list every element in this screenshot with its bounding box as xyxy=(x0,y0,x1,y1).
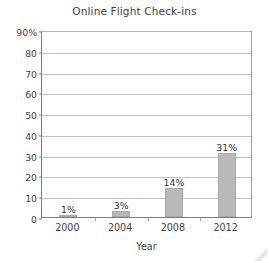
x-axis-tick-label: 2008 xyxy=(161,222,185,233)
y-axis-tick-mark xyxy=(39,32,43,33)
y-axis-tick-label: 90% xyxy=(16,27,37,38)
bar-value-label: 1% xyxy=(61,204,76,215)
x-axis-tick-mark xyxy=(95,217,96,221)
x-axis-tick-label: 2000 xyxy=(55,222,79,233)
bar xyxy=(59,215,77,217)
x-axis-tick-label: 2004 xyxy=(108,222,132,233)
bar-value-label: 14% xyxy=(163,177,184,188)
bar-value-label: 3% xyxy=(114,200,129,211)
y-axis-tick-mark xyxy=(39,177,43,178)
y-axis-tick-label: 10 xyxy=(25,193,37,204)
gridline xyxy=(42,115,251,116)
y-axis-tick-label: 60 xyxy=(25,89,37,100)
x-axis-tick-mark xyxy=(148,217,149,221)
y-axis-tick-mark xyxy=(39,52,43,53)
gridline xyxy=(42,74,251,75)
y-axis-tick-mark xyxy=(39,115,43,116)
gridline xyxy=(42,53,251,54)
y-axis-tick-label: 30 xyxy=(25,151,37,162)
y-axis-tick-label: 20 xyxy=(25,172,37,183)
y-axis-tick-mark xyxy=(39,135,43,136)
y-axis-tick-label: 80 xyxy=(25,47,37,58)
y-axis-tick-label: 40 xyxy=(25,130,37,141)
bar xyxy=(112,211,130,217)
bar-value-label: 31% xyxy=(216,142,237,153)
y-axis-tick-mark xyxy=(39,73,43,74)
x-axis-title: Year xyxy=(41,241,252,252)
y-axis-tick-mark xyxy=(39,219,43,220)
y-axis-tick-mark xyxy=(39,156,43,157)
y-axis-tick-mark xyxy=(39,198,43,199)
y-axis-tick-label: 0 xyxy=(31,214,37,225)
y-axis-tick-label: 70 xyxy=(25,68,37,79)
x-axis-tick-mark xyxy=(200,217,201,221)
bar xyxy=(218,153,236,217)
plot-area: 90%80706050403020100 1%3%14%31% xyxy=(41,31,252,218)
y-axis-tick-mark xyxy=(39,94,43,95)
bar xyxy=(165,188,183,217)
chart-title: Online Flight Check-ins xyxy=(0,5,269,17)
gridline xyxy=(42,136,251,137)
bar-chart: Online Flight Check-ins 90%8070605040302… xyxy=(0,0,269,263)
gridline xyxy=(42,94,251,95)
y-axis-tick-label: 50 xyxy=(25,110,37,121)
x-axis-tick-label: 2012 xyxy=(213,222,237,233)
